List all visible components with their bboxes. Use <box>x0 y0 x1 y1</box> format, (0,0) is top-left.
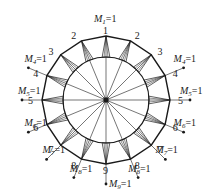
radial-spoke <box>61 100 106 145</box>
load-point <box>182 131 185 134</box>
node-label: 9 <box>103 165 108 176</box>
node-label: 3 <box>49 46 54 57</box>
moment-load-M8-left: M8=1 <box>69 159 92 179</box>
load-label: M8=1 <box>69 163 92 176</box>
radial-spoke <box>61 55 106 100</box>
load-point <box>45 158 48 161</box>
node-label: 1 <box>103 25 108 36</box>
node-label: 3 <box>157 46 162 57</box>
node-label: 5 <box>178 95 183 106</box>
load-point <box>72 176 75 179</box>
load-point <box>27 131 30 134</box>
load-label: M9=1 <box>108 178 131 191</box>
load-point <box>182 66 185 69</box>
moment-load-M5-right: M5=1 <box>170 85 202 101</box>
node-label: 4 <box>173 68 178 79</box>
moment-load-M1: M1=1 <box>93 13 116 26</box>
load-point <box>105 183 108 186</box>
load-point <box>137 176 140 179</box>
load-label: M4=1 <box>23 53 46 66</box>
ring-structure-diagram: 1234567898765432 M1=1M4=1M4=1M5=1M5=1M6=… <box>0 0 216 194</box>
node-label: 4 <box>33 68 38 79</box>
load-point <box>164 158 167 161</box>
moment-loads: M1=1M4=1M4=1M5=1M5=1M6=1M6=1M7=1M7=1M8=1… <box>17 13 202 191</box>
load-label: M5=1 <box>17 85 40 98</box>
load-label: M1=1 <box>93 13 116 26</box>
center-hub <box>104 98 109 103</box>
moment-load-M6-right: M6=1 <box>165 117 196 133</box>
load-point <box>21 99 24 102</box>
load-label: M6=1 <box>23 117 46 130</box>
radial-spoke <box>106 55 151 100</box>
load-point <box>189 99 192 102</box>
load-label: M4=1 <box>173 53 196 66</box>
load-point <box>27 66 30 69</box>
node-label: 2 <box>135 30 140 41</box>
moment-load-M4-right: M4=1 <box>165 53 196 76</box>
node-label: 2 <box>71 30 76 41</box>
radial-spoke <box>106 100 151 145</box>
moment-load-M7-right: M7=1 <box>151 144 178 160</box>
